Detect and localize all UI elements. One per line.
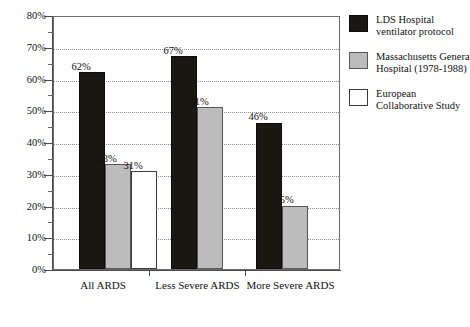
legend-label-line-2: ventilator protocol [376,26,467,38]
legend-label-line-2: Collaborative Study [376,100,467,112]
legend-label-mass-general: Massachusetts General Hospital (1978-198… [376,51,467,75]
category-line-2: ARDS [96,279,125,291]
bar-lds-less-severe [171,56,197,269]
category-label-more-severe-ards: More Severe ARDS [243,279,338,292]
category-line-2: ARDS [305,279,334,291]
bar-label-lds-less: 67% [158,46,188,57]
legend-swatch-mass-general [349,52,368,69]
bar-label-mgh-more: 15% [269,195,299,206]
legend-item-lds-hospital: LDS Hospital ventilator protocol [349,14,467,42]
legend-label-line-1: Massachusetts General [376,51,467,63]
bar-chart: 80% 70% 60% 50% 40% 30% 20% 10% 0% [0,0,470,327]
bar-label-lds-more: 46% [243,112,273,123]
legend-swatch-lds-hospital [349,15,368,32]
legend-label-european-study: European Collaborative Study [376,88,467,112]
bar-lds-all [79,72,105,269]
bar-label-mgh-less: 51% [184,97,214,108]
category-label-all-ards: All ARDS [58,279,148,292]
legend-label-line-2: Hospital (1978-1988) [376,63,467,75]
bar-mgh-less-severe [197,107,223,269]
x-axis-line [53,270,341,271]
legend-label-line-1: LDS Hospital [376,14,467,26]
category-line-2: ARDS [210,279,239,291]
category-line-1: More Severe [246,279,303,291]
bar-label-lds-all: 62% [66,62,96,73]
legend-label-lds-hospital: LDS Hospital ventilator protocol [376,14,467,38]
legend-item-european-study: European Collaborative Study [349,88,467,116]
bar-european-all [131,171,157,269]
category-line-1: All [80,279,94,291]
category-label-less-severe-ards: Less Severe ARDS [150,279,245,292]
chart-legend: LDS Hospital ventilator protocol Massach… [349,14,467,125]
legend-item-mass-general: Massachusetts General Hospital (1978-198… [349,51,467,79]
legend-swatch-european-study [349,89,368,106]
plot-area [53,16,340,270]
bar-label-european-all: 31% [118,161,148,172]
category-line-1: Less Severe [155,279,208,291]
bar-mgh-more-severe [282,206,308,270]
bar-mgh-all [105,164,131,269]
legend-label-line-1: European [376,88,467,100]
